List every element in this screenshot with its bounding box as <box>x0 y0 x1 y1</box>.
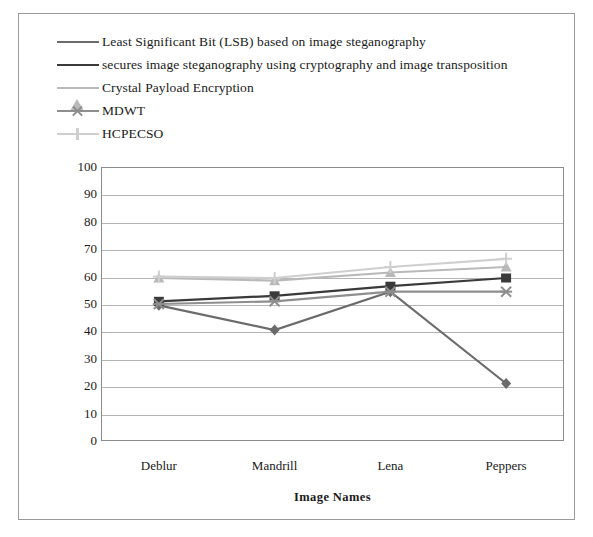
data-point-marker <box>500 287 512 297</box>
x-axis-tick-label: Lena <box>335 458 445 474</box>
y-axis-tick-label: 80 <box>57 215 97 228</box>
y-axis-tick-label: 40 <box>57 324 97 337</box>
page-top-margin <box>0 0 593 13</box>
page-bottom-margin <box>0 521 593 537</box>
y-axis-tick-label: 20 <box>57 379 97 392</box>
x-axis-title: Image Names <box>101 490 564 505</box>
y-axis-tick-labels: 1009080706050403020100 <box>52 14 97 521</box>
y-axis-tick-label: 100 <box>57 160 97 173</box>
data-point-marker <box>270 325 280 336</box>
data-point-marker <box>500 253 512 265</box>
series-line <box>159 292 506 384</box>
y-axis-tick-label: 10 <box>57 407 97 420</box>
x-axis-tick-label: Peppers <box>451 458 561 474</box>
y-axis-tick-label: 90 <box>57 187 97 200</box>
x-axis-tick-labels: DeblurMandrillLenaPeppers <box>101 458 564 478</box>
data-point-marker <box>501 274 511 283</box>
figure-frame: Least Significant Bit (LSB) based on ima… <box>18 13 575 520</box>
series-line <box>159 278 506 301</box>
y-axis-tick-label: 60 <box>57 270 97 283</box>
y-axis-tick-label: 70 <box>57 242 97 255</box>
series-diamond <box>154 286 511 389</box>
x-axis-tick-label: Mandrill <box>220 458 330 474</box>
series-lines <box>101 167 564 441</box>
x-axis-tick-label: Deblur <box>104 458 214 474</box>
data-point-marker <box>269 272 281 284</box>
y-axis-tick-label: 50 <box>57 297 97 310</box>
series-line <box>159 267 506 281</box>
y-axis-tick-label: 0 <box>57 434 97 447</box>
chart-plot-area: Peak Signal to Noise Ratio (dB) 10090807… <box>19 14 576 521</box>
y-axis-tick-label: 30 <box>57 352 97 365</box>
